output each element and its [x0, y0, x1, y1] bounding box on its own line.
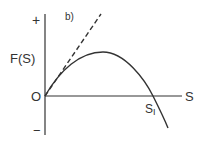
panel-label: b)	[65, 11, 74, 22]
y-axis-label: F(S)	[10, 51, 35, 66]
root-label-main: S	[145, 102, 153, 116]
x-axis-label: S	[185, 89, 194, 104]
fs-curve	[45, 52, 168, 128]
root-label-sub: I	[153, 107, 156, 117]
plus-label: +	[32, 12, 40, 28]
minus-label: −	[33, 123, 41, 138]
diagram-canvas: + b) F(S) O − S SI	[0, 0, 199, 143]
root-label: SI	[145, 102, 156, 117]
origin-label: O	[31, 89, 41, 104]
